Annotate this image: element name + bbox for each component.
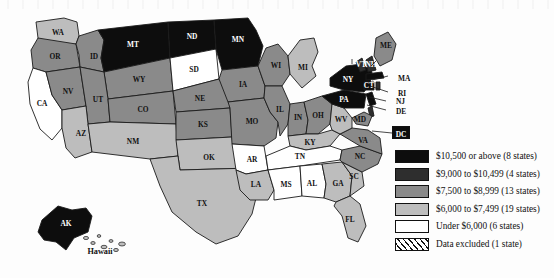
state-label-hawaii: Hawaii bbox=[87, 247, 113, 256]
hawaii-island-5 bbox=[114, 248, 119, 251]
state-label-nv: NV bbox=[63, 87, 74, 96]
state-label-id: ID bbox=[90, 52, 98, 61]
map-legend: $10,500 or above (8 states)$9,000 to $10… bbox=[395, 148, 551, 253]
legend-label: Data excluded (1 state) bbox=[436, 240, 522, 249]
legend-label: Under $6,000 (6 states) bbox=[436, 222, 523, 231]
hawaii-island-6 bbox=[119, 242, 126, 246]
state-label-ne: NE bbox=[195, 94, 205, 103]
state-label-ks: KS bbox=[198, 120, 208, 129]
state-label-in: IN bbox=[294, 113, 303, 122]
state-label-nd: ND bbox=[187, 32, 198, 41]
state-label-ms: MS bbox=[280, 180, 291, 189]
state-label-ca: CA bbox=[37, 99, 48, 108]
hawaii-island-4 bbox=[109, 240, 113, 243]
legend-label: $6,000 to $7,499 (19 states) bbox=[436, 205, 540, 214]
legend-row: Under $6,000 (6 states) bbox=[395, 218, 551, 236]
state-label-wa: WA bbox=[52, 28, 65, 37]
legend-swatch bbox=[395, 150, 429, 163]
leader-dc bbox=[372, 131, 392, 133]
state-label-ok: OK bbox=[203, 153, 215, 162]
state-label-ia: IA bbox=[239, 80, 248, 89]
state-label-va: VA bbox=[358, 136, 368, 145]
state-label-co: CO bbox=[137, 105, 148, 114]
legend-swatch bbox=[395, 203, 429, 216]
state-label-ut: UT bbox=[93, 95, 103, 104]
state-label-md: MD bbox=[354, 115, 366, 124]
state-label-mn: MN bbox=[232, 35, 245, 44]
state-label-nj: NJ bbox=[396, 97, 405, 106]
state-label-or: OR bbox=[49, 52, 61, 61]
state-label-nc: NC bbox=[355, 152, 366, 161]
legend-row: $9,000 to $10,499 (4 states) bbox=[395, 166, 551, 184]
state-nj bbox=[366, 92, 376, 106]
state-label-il: IL bbox=[276, 105, 284, 114]
state-label-nm: NM bbox=[127, 137, 139, 146]
state-label-wy: WY bbox=[133, 75, 146, 84]
legend-swatch bbox=[395, 220, 429, 233]
hawaii-island-1 bbox=[91, 242, 95, 245]
legend-label: $7,500 to $8,999 (13 states) bbox=[436, 187, 540, 196]
legend-label: $9,000 to $10,499 (4 states) bbox=[436, 170, 540, 179]
state-label-me: ME bbox=[380, 41, 392, 50]
legend-swatch bbox=[395, 185, 429, 198]
state-label-ky: KY bbox=[304, 138, 316, 147]
state-label-mt: MT bbox=[127, 40, 139, 49]
legend-row: Data excluded (1 state) bbox=[395, 236, 551, 254]
state-label-tx: TX bbox=[197, 199, 208, 208]
legend-swatch bbox=[395, 238, 429, 251]
hawaii-island-0 bbox=[83, 236, 88, 239]
legend-row: $10,500 or above (8 states) bbox=[395, 148, 551, 166]
legend-row: $7,500 to $8,999 (13 states) bbox=[395, 183, 551, 201]
legend-swatch bbox=[395, 168, 429, 181]
state-mn bbox=[214, 18, 263, 70]
us-choropleth-map: WAORCANVIDMTWYUTAZCONMNDSDNEKSOKTXMNIAMO… bbox=[0, 0, 554, 278]
legend-label: $10,500 or above (8 states) bbox=[436, 152, 537, 161]
state-label-az: AZ bbox=[76, 129, 86, 138]
hawaii-island-2 bbox=[97, 235, 101, 238]
state-label-oh: OH bbox=[312, 111, 324, 120]
state-label-wv: WV bbox=[335, 115, 348, 124]
state-label-ga: GA bbox=[332, 179, 344, 188]
state-label-mi: MI bbox=[298, 63, 308, 72]
state-label-al: AL bbox=[307, 179, 317, 188]
state-label-ma: MA bbox=[398, 74, 411, 83]
state-label-sc: SC bbox=[349, 172, 358, 181]
state-label-ar: AR bbox=[247, 155, 258, 164]
state-label-ny: NY bbox=[343, 75, 354, 84]
state-label-nh: NH bbox=[365, 60, 376, 69]
state-label-dc: DC bbox=[396, 130, 407, 139]
state-label-sd: SD bbox=[189, 65, 198, 74]
state-label-mo: MO bbox=[246, 117, 259, 126]
legend-row: $6,000 to $7,499 (19 states) bbox=[395, 201, 551, 219]
state-label-ak: AK bbox=[60, 219, 71, 228]
state-ak bbox=[38, 206, 92, 250]
state-label-la: LA bbox=[251, 180, 262, 189]
state-label-fl: FL bbox=[345, 215, 355, 224]
state-label-wi: WI bbox=[271, 61, 281, 70]
state-label-ct: CT bbox=[364, 81, 374, 90]
state-label-pa: PA bbox=[339, 95, 349, 104]
state-label-de: DE bbox=[396, 107, 406, 116]
state-label-tn: TN bbox=[295, 152, 306, 161]
